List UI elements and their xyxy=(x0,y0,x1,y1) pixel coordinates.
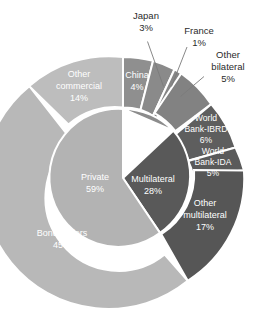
label-wb-ida-line2: Bank-IDA xyxy=(195,157,232,167)
label-bondholders-pct: 45% xyxy=(53,240,71,250)
label-private-pct: 59% xyxy=(86,184,104,194)
label-japan-pct: 3% xyxy=(139,22,153,33)
label-other-multilateral-line1: Other xyxy=(194,198,217,208)
label-other-bilateral-line2: bilateral xyxy=(211,61,244,72)
label-bondholders: Bondholders xyxy=(37,228,88,238)
label-other-commercial-line2: commercial xyxy=(56,81,102,91)
label-other-bilateral-pct: 5% xyxy=(221,73,235,84)
label-bilateral: Bilateral xyxy=(129,125,162,135)
label-france-pct: 1% xyxy=(192,37,206,48)
label-private: Private xyxy=(81,172,109,182)
label-china: China xyxy=(125,70,149,80)
label-multilateral: Multilateral xyxy=(131,174,175,184)
label-other-commercial-line1: Other xyxy=(68,69,91,79)
label-other-commercial-pct: 14% xyxy=(70,93,88,103)
label-other-multilateral-line2: multilateral xyxy=(183,210,227,220)
label-japan: Japan xyxy=(133,10,159,21)
label-wb-ibrd-pct: 6% xyxy=(200,135,213,145)
label-multilateral-pct: 28% xyxy=(144,186,162,196)
label-other-multilateral-pct: 17% xyxy=(196,222,214,232)
nested-pie-chart: Japan 3% France 1% Other bilateral 5% Ch… xyxy=(0,0,262,318)
label-bilateral-pct: 13% xyxy=(136,137,154,147)
label-wb-ida-line1: World xyxy=(202,146,225,156)
label-wb-ida-pct: 5% xyxy=(207,168,220,178)
label-wb-ibrd-line2: Bank-IBRD xyxy=(185,124,228,134)
label-wb-ibrd-line1: World xyxy=(195,113,218,123)
label-france: France xyxy=(184,25,214,36)
pie-canvas: Japan 3% France 1% Other bilateral 5% Ch… xyxy=(0,0,262,318)
label-china-pct: 4% xyxy=(130,82,143,92)
label-other-bilateral-line1: Other xyxy=(216,49,240,60)
